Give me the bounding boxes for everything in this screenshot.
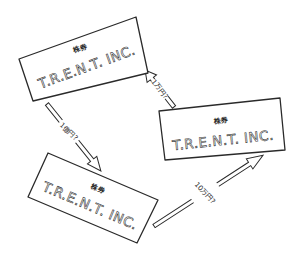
stock-certificate-diagram: 1億円? 1万円? 10万円? 株券 T.R.E.N.T. INC. 株券 T.… bbox=[0, 0, 302, 259]
certificate-right: 株券 T.R.E.N.T. INC. bbox=[159, 98, 285, 160]
certificate-top-left: 株券 T.R.E.N.T. INC. bbox=[19, 17, 148, 101]
certificate-label: 株券 bbox=[214, 115, 230, 126]
